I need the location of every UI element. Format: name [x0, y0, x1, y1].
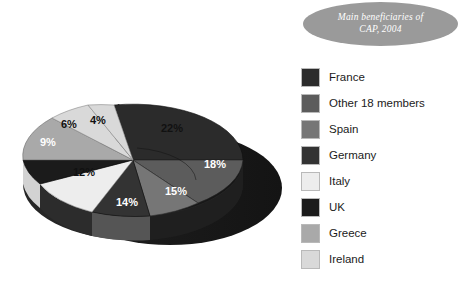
pie-label-other: 18%	[204, 158, 226, 170]
pie-label-spain: 15%	[165, 185, 187, 197]
pie-chart-svg: 22% 18% 15% 14% 12% 9% 6% 4%	[0, 88, 295, 258]
legend-item-other-18-members[interactable]: Other 18 members	[301, 90, 466, 116]
page-title: Main beneficiaries of CAP, 2004	[338, 11, 423, 37]
legend-item-italy[interactable]: Italy	[301, 168, 466, 194]
legend-swatch-greece	[301, 224, 320, 243]
legend-swatch-uk	[301, 198, 320, 217]
chart-title-banner: Main beneficiaries of CAP, 2004	[303, 2, 458, 46]
legend-swatch-italy	[301, 172, 320, 191]
pie-chart: 22% 18% 15% 14% 12% 9% 6% 4%	[0, 88, 295, 258]
pie-label-germany: 14%	[116, 196, 138, 208]
legend-swatch-france	[301, 68, 320, 87]
legend-label-other-18-members: Other 18 members	[329, 97, 425, 109]
pie-label-italy: 12%	[73, 166, 95, 178]
legend-item-greece[interactable]: Greece	[301, 220, 466, 246]
legend-item-spain[interactable]: Spain	[301, 116, 466, 142]
legend-label-greece: Greece	[329, 227, 367, 239]
legend-item-uk[interactable]: UK	[301, 194, 466, 220]
legend-item-germany[interactable]: Germany	[301, 142, 466, 168]
pie-label-france: 22%	[161, 122, 183, 134]
legend-swatch-spain	[301, 120, 320, 139]
legend-label-germany: Germany	[329, 149, 376, 161]
legend-label-uk: UK	[329, 201, 345, 213]
legend-swatch-other-18-members	[301, 94, 320, 113]
legend-label-italy: Italy	[329, 175, 350, 187]
legend-label-france: France	[329, 71, 365, 83]
legend-label-spain: Spain	[329, 123, 358, 135]
pie-label-uk: 9%	[40, 136, 56, 148]
legend-label-ireland: Ireland	[329, 253, 364, 265]
legend-swatch-germany	[301, 146, 320, 165]
pie-label-ireland: 4%	[90, 114, 106, 126]
pie-label-greece: 6%	[61, 118, 77, 130]
legend-swatch-ireland	[301, 250, 320, 269]
chart-legend: France Other 18 members Spain Germany It…	[301, 64, 466, 272]
chart-page: Main beneficiaries of CAP, 2004	[0, 0, 466, 289]
legend-item-france[interactable]: France	[301, 64, 466, 90]
legend-item-ireland[interactable]: Ireland	[301, 246, 466, 272]
